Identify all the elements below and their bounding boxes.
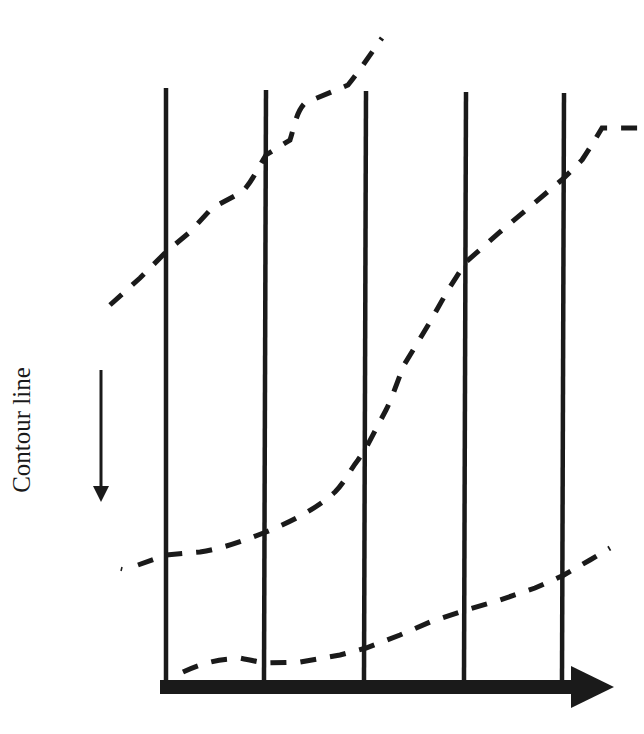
arrow-down-icon	[93, 486, 109, 502]
vertical-line-3	[364, 91, 366, 680]
vertical-line-4	[464, 92, 466, 680]
upper-contour-line	[110, 38, 382, 305]
horizontal-axis-arrow	[160, 666, 614, 708]
stray-mark	[121, 567, 122, 571]
middle-contour-line	[138, 128, 642, 565]
vertical-lines	[166, 88, 564, 680]
contour-line-label: Contour line	[8, 367, 36, 493]
axis-shaft	[160, 680, 580, 694]
lower-contour-line	[183, 548, 610, 672]
vertical-line-2	[264, 90, 266, 680]
contour-diagram	[0, 0, 644, 734]
arrow-right-icon	[571, 666, 614, 708]
down-direction-arrow	[93, 370, 109, 502]
